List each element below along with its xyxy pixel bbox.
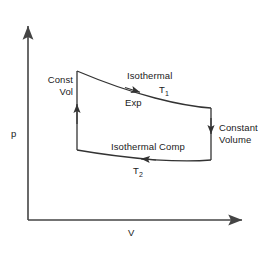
pv-cycle-diagram: Const Vol Isothermal T1 Exp Constant Vol… [0, 0, 278, 254]
label-const-vol-line2: Vol [59, 86, 73, 97]
label-temperature-t1: T1 [159, 84, 169, 99]
label-isothermal-compression: Isothermal Comp [111, 141, 185, 153]
label-t1-subscript: 1 [165, 90, 169, 97]
isothermal-compression-arrow [141, 159, 156, 160]
label-constant-volume: Constant Volume [219, 122, 275, 145]
label-const-vol: Const Vol [33, 74, 73, 97]
label-const-vol-line1: Const [48, 74, 73, 85]
label-isothermal-expansion: Isothermal [127, 70, 172, 82]
label-t2-subscript: 2 [139, 171, 143, 178]
y-axis-label: p [11, 128, 16, 140]
label-constant-volume-line2: Volume [219, 134, 251, 145]
x-axis-label: V [128, 227, 134, 239]
label-temperature-t2: T2 [133, 165, 143, 180]
label-expansion: Exp [125, 97, 142, 109]
label-constant-volume-line1: Constant [219, 122, 258, 133]
